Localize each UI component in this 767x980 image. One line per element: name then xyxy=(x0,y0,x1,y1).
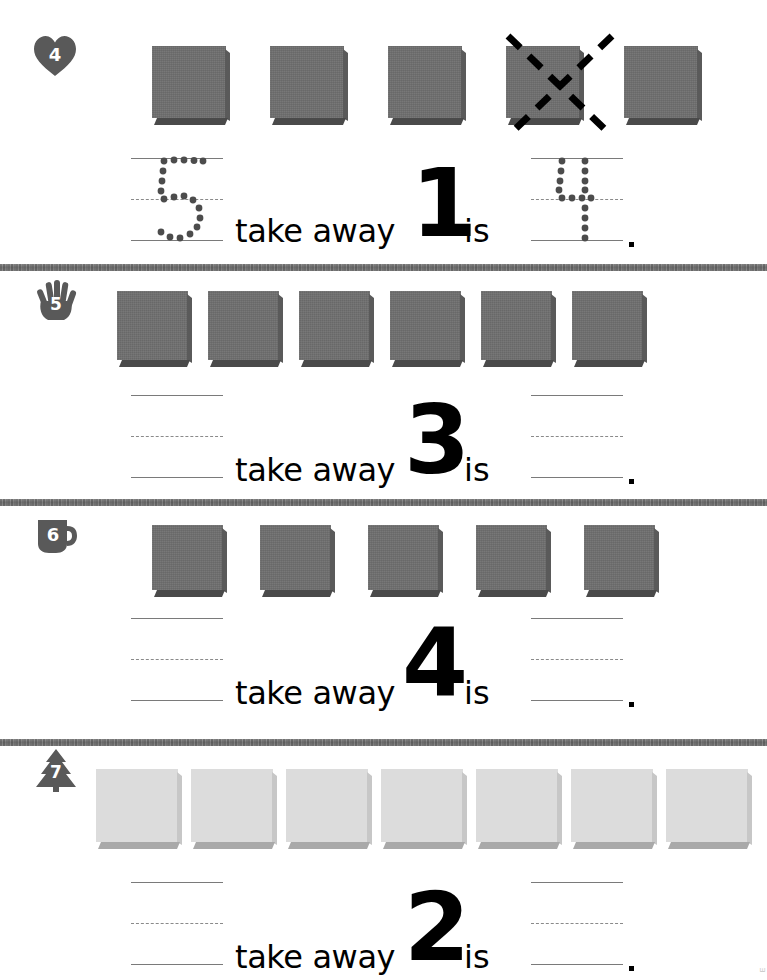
problem-number-badge-mug: 6 xyxy=(33,511,79,557)
cube xyxy=(368,525,443,597)
period-mark xyxy=(629,702,634,707)
guide-line-top xyxy=(531,395,623,396)
cube-face xyxy=(388,46,462,118)
cube-side xyxy=(343,49,348,121)
guide-line-middle xyxy=(131,199,223,200)
cube-row xyxy=(152,46,702,125)
cube-bottom xyxy=(483,360,554,367)
guide-line-middle xyxy=(131,923,223,924)
subtrahend-number: 3 xyxy=(404,393,470,488)
guide-line-bottom xyxy=(531,964,623,965)
answer-blank[interactable] xyxy=(531,395,623,477)
cube-bottom xyxy=(392,360,463,367)
cube-face xyxy=(390,291,461,360)
cube-side xyxy=(272,772,277,845)
worksheet-page: 4 xyxy=(0,0,767,980)
cube-face xyxy=(208,291,279,360)
cube xyxy=(572,291,647,367)
cube-side xyxy=(225,49,230,121)
cube-side xyxy=(462,772,467,845)
take-away-text: take away xyxy=(235,451,395,489)
cube-bottom xyxy=(119,360,190,367)
cube-side xyxy=(579,49,584,121)
cube-bottom xyxy=(586,590,657,597)
guide-line-top xyxy=(131,882,223,883)
cube xyxy=(666,769,752,849)
guide-line-bottom xyxy=(131,700,223,701)
cube-face xyxy=(476,769,558,842)
cube-bottom xyxy=(626,118,700,125)
cube-face xyxy=(260,525,331,590)
period-mark xyxy=(629,966,634,971)
is-text: is xyxy=(464,938,490,976)
guide-line-middle xyxy=(531,436,623,437)
cube-bottom xyxy=(390,118,464,125)
cube-bottom xyxy=(508,118,582,125)
is-text: is xyxy=(464,451,490,489)
cube xyxy=(96,769,182,849)
take-away-text: take away xyxy=(235,938,395,976)
cube-face xyxy=(476,525,547,590)
guide-line-top xyxy=(131,618,223,619)
guide-line-middle xyxy=(531,199,623,200)
cube-bottom xyxy=(478,590,549,597)
section-divider xyxy=(0,264,767,271)
guide-line-top xyxy=(531,158,623,159)
problem-6: 6 xyxy=(0,499,767,735)
cube-face xyxy=(571,769,653,842)
cube-side xyxy=(438,528,443,593)
cube xyxy=(152,525,227,597)
cube xyxy=(476,769,562,849)
is-text: is xyxy=(464,212,490,250)
guide-line-top xyxy=(131,395,223,396)
cube-side xyxy=(330,528,335,593)
cube-side xyxy=(222,528,227,593)
cube xyxy=(584,525,659,597)
problem-number-badge-tree: 7 xyxy=(33,747,79,793)
cube xyxy=(152,46,230,125)
minuend-blank[interactable] xyxy=(131,618,223,700)
cube-face xyxy=(299,291,370,360)
take-away-text: take away xyxy=(235,212,395,250)
guide-line-middle xyxy=(131,659,223,660)
cube xyxy=(381,769,467,849)
cube xyxy=(299,291,374,367)
cube-bottom xyxy=(262,590,333,597)
cube-side xyxy=(278,294,283,363)
problem-7: 7 xyxy=(0,745,767,980)
guide-line-bottom xyxy=(131,477,223,478)
cube-face xyxy=(481,291,552,360)
guide-line-middle xyxy=(531,923,623,924)
cube-row xyxy=(96,769,752,849)
cube-face xyxy=(666,769,748,842)
subtrahend-number: 4 xyxy=(402,616,468,711)
cube-side xyxy=(557,772,562,845)
answer-blank[interactable] xyxy=(531,882,623,964)
subtrahend-number: 2 xyxy=(404,880,470,975)
guide-line-bottom xyxy=(131,240,223,241)
cube-side xyxy=(642,294,647,363)
answer-blank[interactable] xyxy=(531,618,623,700)
answer-blank[interactable] xyxy=(531,158,623,240)
minuend-blank[interactable] xyxy=(131,395,223,477)
problem-number-label: 6 xyxy=(47,526,60,544)
minuend-blank[interactable] xyxy=(131,882,223,964)
cube xyxy=(481,291,556,367)
take-away-text: take away xyxy=(235,674,395,712)
problem-5: 5 xyxy=(0,271,767,495)
cube-bottom xyxy=(574,360,645,367)
cube-bottom xyxy=(573,842,655,849)
cube-face xyxy=(96,769,178,842)
period-mark xyxy=(629,242,634,247)
minuend-blank[interactable] xyxy=(131,158,223,240)
cube xyxy=(191,769,277,849)
guide-line-middle xyxy=(131,436,223,437)
cube-bottom xyxy=(98,842,180,849)
cube-side xyxy=(747,772,752,845)
cube-side xyxy=(367,772,372,845)
cube-bottom xyxy=(210,360,281,367)
cube xyxy=(388,46,466,125)
cube-row xyxy=(117,291,647,367)
problem-number-badge-hand: 5 xyxy=(33,277,79,323)
cube-bottom xyxy=(370,590,441,597)
